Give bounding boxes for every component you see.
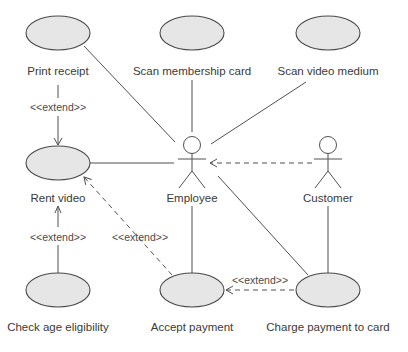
- actor-label: Employee: [166, 192, 217, 204]
- actor-head-icon: [320, 137, 337, 154]
- use-case-label: Check age eligibility: [7, 321, 109, 333]
- use-case-check-age-eligibility[interactable]: Check age eligibility: [7, 273, 109, 333]
- actor-left-leg: [179, 171, 192, 188]
- use-case-scan-membership-card[interactable]: Scan membership card: [133, 16, 251, 77]
- use-case-label: Charge payment to card: [266, 321, 389, 333]
- actor-customer[interactable]: Customer: [303, 137, 353, 205]
- use-case-label: Print receipt: [27, 65, 89, 77]
- extends: [58, 85, 312, 290]
- use-case-label: Rent video: [31, 192, 86, 204]
- use-case-accept-payment[interactable]: Accept payment: [151, 273, 234, 333]
- extend-label-charge-payment: <<extend>>: [232, 274, 288, 286]
- actor-label: Customer: [303, 192, 353, 204]
- extend-accept-payment-rent-video[interactable]: [84, 177, 172, 275]
- extend-label-print-receipt: <<extend>>: [30, 101, 86, 113]
- use-case-scan-video-medium[interactable]: Scan video medium: [278, 16, 379, 77]
- actor-right-leg: [192, 171, 205, 188]
- use-case-label: Scan membership card: [133, 65, 251, 77]
- actor-head-icon: [184, 137, 201, 154]
- use-case-label: Accept payment: [151, 321, 234, 333]
- actor-right-leg: [328, 171, 341, 188]
- actor-employee[interactable]: Employee: [166, 137, 217, 205]
- extend-label-accept-payment: <<extend>>: [112, 231, 168, 243]
- assoc-employee-charge-payment[interactable]: [218, 176, 308, 275]
- extend-label-check-age: <<extend>>: [30, 231, 86, 243]
- assoc-employee-scan-video-medium[interactable]: [211, 82, 306, 144]
- use-case-rent-video[interactable]: Rent video: [26, 146, 90, 204]
- use-case-diagram: Print receipt Scan membership card Scan …: [0, 0, 408, 352]
- use-case-print-receipt[interactable]: Print receipt: [26, 16, 90, 77]
- actor-left-leg: [315, 171, 328, 188]
- use-case-label: Scan video medium: [278, 65, 379, 77]
- assoc-employee-print-receipt[interactable]: [84, 46, 175, 142]
